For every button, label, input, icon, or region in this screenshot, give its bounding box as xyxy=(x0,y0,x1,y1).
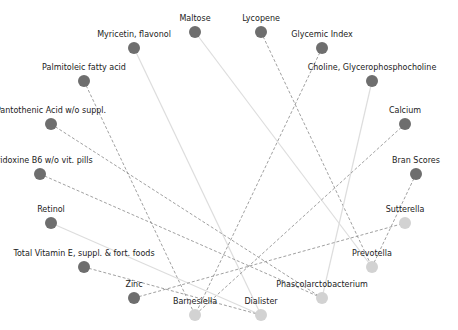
node-label-pyridoxine: Pyridoxine B6 w/o vit. pills xyxy=(0,156,93,166)
node-palmitoleic[interactable] xyxy=(78,75,90,87)
node-barnesiella[interactable] xyxy=(189,309,201,321)
edge-vitamine-dialister xyxy=(84,267,261,315)
node-pyridoxine[interactable] xyxy=(34,168,46,180)
node-myricetin[interactable] xyxy=(128,42,140,54)
node-calcium[interactable] xyxy=(399,118,411,130)
node-bran[interactable] xyxy=(410,168,422,180)
node-label-calcium: Calcium xyxy=(389,106,421,116)
node-phascolarcto[interactable] xyxy=(316,292,328,304)
node-label-myricetin: Myricetin, flavonol xyxy=(97,30,171,40)
node-vitamine[interactable] xyxy=(78,261,90,273)
node-label-palmitoleic: Palmitoleic fatty acid xyxy=(42,63,126,73)
node-maltose[interactable] xyxy=(189,26,201,38)
edges-layer xyxy=(40,32,416,315)
node-label-vitamine: Total Vitamin E, suppl. & fort. foods xyxy=(13,249,154,259)
node-dialister[interactable] xyxy=(255,309,267,321)
node-label-retinol: Retinol xyxy=(37,205,65,215)
edge-myricetin-dialister xyxy=(134,48,261,315)
node-label-pantothenic: Pantothenic Acid w/o suppl. xyxy=(0,106,106,116)
node-glycemic[interactable] xyxy=(316,42,328,54)
node-label-choline: Choline, Glycerophosphocholine xyxy=(308,63,437,73)
node-label-dialister: Dialister xyxy=(244,297,277,307)
edge-glycemic-barnesiella xyxy=(195,48,322,315)
node-sutterella[interactable] xyxy=(399,217,411,229)
node-label-bran: Bran Scores xyxy=(392,156,440,166)
node-label-maltose: Maltose xyxy=(179,14,210,24)
node-lycopene[interactable] xyxy=(255,26,267,38)
node-pantothenic[interactable] xyxy=(45,118,57,130)
node-zinc[interactable] xyxy=(128,292,140,304)
node-prevotella[interactable] xyxy=(366,261,378,273)
node-retinol[interactable] xyxy=(45,217,57,229)
node-label-barnesiella: Barnesiella xyxy=(173,297,217,307)
edge-choline-phascolarcto xyxy=(322,81,372,298)
node-label-phascolarcto: Phascolarctobacterium xyxy=(276,280,368,290)
node-label-lycopene: Lycopene xyxy=(242,14,280,24)
edge-pantothenic-phascolarcto xyxy=(51,124,322,298)
node-label-glycemic: Glycemic Index xyxy=(291,30,352,40)
node-label-prevotella: Prevotella xyxy=(352,249,392,259)
node-label-sutterella: Sutterella xyxy=(386,205,425,215)
node-choline[interactable] xyxy=(366,75,378,87)
node-label-zinc: Zinc xyxy=(125,280,142,290)
